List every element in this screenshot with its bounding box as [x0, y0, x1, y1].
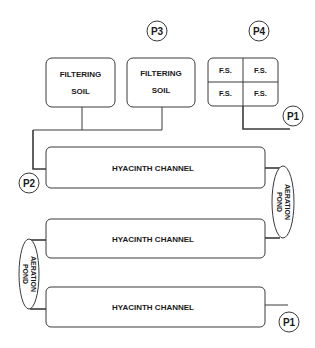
aeration-pond-right-line2: POND — [276, 192, 283, 212]
fs-cell-2: F.S. — [254, 66, 267, 75]
hyacinth-channel-3: HYACINTH CHANNEL — [46, 287, 265, 327]
aeration-pond-left-line2: POND — [22, 264, 29, 284]
point-p1-bottom: P1 — [279, 312, 299, 332]
point-p4-label: P4 — [253, 26, 266, 37]
connector-to-channel1 — [33, 130, 47, 169]
aeration-pond-right: AERATION POND — [272, 166, 294, 238]
filtering-soil-1-line2: SOIL — [71, 87, 90, 96]
filtering-soil-2-line2: SOIL — [152, 86, 171, 95]
filtering-soil-1-line1: FILTERING — [60, 70, 102, 79]
aeration-pond-left-line1: AERATION — [30, 256, 37, 292]
fs-grid: F.S. F.S. F.S. F.S. — [208, 58, 278, 106]
filtering-soil-box-2: FILTERING SOIL — [127, 58, 195, 107]
point-p2-label: P2 — [23, 178, 36, 189]
treatment-flow-diagram: P3 P4 P1 P2 P1 FILTERING SOIL FILTERING … — [0, 0, 315, 348]
point-p3-label: P3 — [151, 26, 164, 37]
fs-cell-4: F.S. — [254, 89, 267, 98]
point-p1-bottom-label: P1 — [283, 317, 296, 328]
aeration-pond-right-line1: AERATION — [284, 184, 291, 220]
hyacinth-channel-1: HYACINTH CHANNEL — [46, 147, 265, 188]
hyacinth-channel-1-label: HYACINTH CHANNEL — [112, 164, 194, 173]
aeration-pond-left: AERATION POND — [19, 239, 39, 309]
filtering-soil-2-line1: FILTERING — [140, 69, 182, 78]
point-p3: P3 — [147, 21, 167, 41]
point-p1-top: P1 — [283, 106, 303, 126]
point-p1-top-label: P1 — [287, 111, 300, 122]
hyacinth-channel-2-label: HYACINTH CHANNEL — [112, 235, 194, 244]
hyacinth-channel-3-label: HYACINTH CHANNEL — [112, 303, 194, 312]
hyacinth-channel-2: HYACINTH CHANNEL — [46, 219, 265, 258]
point-p4: P4 — [249, 21, 269, 41]
fs-cell-3: F.S. — [219, 89, 232, 98]
point-p2: P2 — [19, 173, 39, 193]
filtering-soil-box-1: FILTERING SOIL — [46, 58, 115, 107]
fs-cell-1: F.S. — [219, 66, 232, 75]
